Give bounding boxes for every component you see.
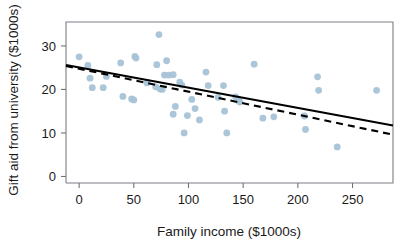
data-point (236, 99, 243, 106)
data-point (87, 75, 94, 82)
solid-regression-line (66, 65, 393, 125)
x-tick-label: 100 (178, 192, 200, 207)
data-point (302, 126, 309, 133)
x-tick-label: 0 (76, 192, 83, 207)
data-point (270, 113, 277, 120)
x-axis-label: Family income ($1000s) (157, 224, 301, 239)
data-point (130, 96, 137, 103)
data-point (315, 87, 322, 94)
data-point (172, 103, 179, 110)
x-tick-label: 50 (127, 192, 141, 207)
data-point (221, 108, 228, 115)
data-point (188, 96, 195, 103)
data-point (196, 117, 203, 124)
regression-lines (66, 65, 393, 135)
y-tick-label: 0 (49, 169, 56, 184)
plot-frame (66, 22, 393, 183)
data-point (170, 111, 177, 118)
dashed-regression-line (66, 66, 393, 135)
y-tick-label: 30 (42, 39, 56, 54)
data-point (223, 130, 230, 137)
x-tick-label: 250 (342, 192, 364, 207)
scatter-plot-figure: 050100150200250 0102030 Family income ($… (0, 0, 408, 245)
data-point (156, 31, 163, 38)
data-point (215, 94, 222, 101)
data-point (100, 84, 107, 91)
data-point (184, 112, 191, 119)
data-point (181, 130, 188, 137)
data-point (251, 61, 258, 68)
y-axis-label: Gift aid from university ($1000s) (6, 4, 21, 195)
plot-border (66, 22, 393, 183)
data-point (373, 87, 380, 94)
data-point (170, 71, 177, 78)
data-point (205, 82, 212, 89)
data-point (163, 57, 170, 64)
chart-canvas: 050100150200250 0102030 Family income ($… (0, 0, 408, 245)
x-axis-ticks: 050100150200250 (76, 183, 364, 207)
data-point (133, 55, 140, 62)
data-point (259, 115, 266, 122)
x-tick-label: 150 (232, 192, 254, 207)
data-point (192, 105, 199, 112)
data-point (334, 143, 341, 150)
y-tick-label: 20 (42, 82, 56, 97)
data-point (117, 60, 124, 67)
data-points (76, 31, 380, 150)
data-point (89, 84, 96, 91)
y-axis-ticks: 0102030 (42, 39, 66, 185)
data-point (119, 93, 126, 100)
data-point (76, 53, 83, 60)
x-tick-label: 200 (287, 192, 309, 207)
data-point (220, 82, 227, 89)
data-point (314, 73, 321, 80)
y-tick-label: 10 (42, 126, 56, 141)
data-point (203, 69, 210, 76)
data-point (153, 61, 160, 68)
